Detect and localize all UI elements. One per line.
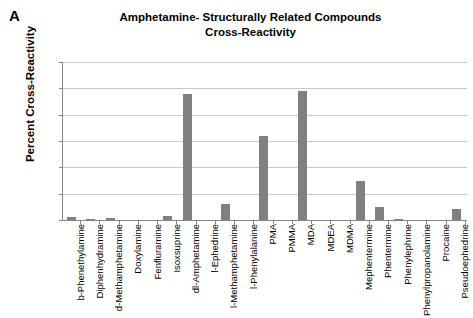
bar-slot: [370, 62, 389, 220]
x-tick-label-cell: b-Phenethylamine: [62, 224, 81, 318]
x-tick-label-cell: Fenfluramine: [139, 224, 158, 318]
bar-slot: [427, 62, 446, 220]
chart-title-line-2: Cross-Reactivity: [48, 25, 453, 40]
bar-slot: [216, 62, 235, 220]
x-tick-label-cell: d-Methamphetamine: [100, 224, 119, 318]
bar[interactable]: [375, 207, 384, 220]
bar-slot: [100, 62, 119, 220]
x-tick-label-cell: MDEA: [312, 224, 331, 318]
bar-slot: [158, 62, 177, 220]
bar-slot: [120, 62, 139, 220]
x-tick-label-cell: PMMA: [274, 224, 293, 318]
y-axis-title: Percent Cross-Reactivity: [24, 4, 36, 184]
x-tick-label-cell: Phenylephrine: [389, 224, 408, 318]
bar-slot: [447, 62, 466, 220]
bar-slot: [177, 62, 196, 220]
x-tick-label-cell: l-Ephedrine: [197, 224, 216, 318]
bar-slot: [389, 62, 408, 220]
bar-slot: [351, 62, 370, 220]
bar[interactable]: [259, 136, 268, 220]
chart-title: Amphetamine- Structurally Related Compou…: [48, 10, 453, 40]
bar-slot: [139, 62, 158, 220]
bar-slot: [312, 62, 331, 220]
x-tick-label-cell: Pseudoephedrine: [447, 224, 466, 318]
x-tick-label-cell: PMA: [254, 224, 273, 318]
bar[interactable]: [221, 204, 230, 220]
bar-slot: [331, 62, 350, 220]
x-tick-label-cell: MDMA: [331, 224, 350, 318]
x-tick-label: Pseudoephedrine: [460, 224, 470, 298]
x-tick-label-cell: Phenylpropanolamine: [408, 224, 427, 318]
chart-figure: A Amphetamine- Structurally Related Comp…: [0, 0, 473, 318]
bars-container: [62, 62, 466, 220]
bar-slot: [408, 62, 427, 220]
bar[interactable]: [452, 209, 461, 220]
x-tick-label-cell: Diphenhydramine: [81, 224, 100, 318]
bar-slot: [81, 62, 100, 220]
x-tick-label-cell: MDA: [293, 224, 312, 318]
bar-slot: [235, 62, 254, 220]
bar-slot: [254, 62, 273, 220]
panel-letter: A: [9, 8, 20, 23]
bar[interactable]: [356, 181, 365, 221]
x-tick-label-cell: dl-Amphetamine: [177, 224, 196, 318]
x-tick-label-cell: Doxylamine: [120, 224, 139, 318]
bar-slot: [62, 62, 81, 220]
chart-title-line-1: Amphetamine- Structurally Related Compou…: [120, 11, 382, 23]
bar[interactable]: [183, 94, 192, 220]
bar-slot: [293, 62, 312, 220]
x-tick-label-cell: l-Phenylalanine: [235, 224, 254, 318]
x-axis-labels: b-PhenethylamineDiphenhydramined-Methamp…: [62, 224, 466, 318]
bar[interactable]: [298, 91, 307, 220]
x-tick-label-cell: Procaine: [427, 224, 446, 318]
bar-slot: [197, 62, 216, 220]
x-tick-label-cell: Isoxsuprine: [158, 224, 177, 318]
x-tick-label-cell: Phentermine: [370, 224, 389, 318]
bar-slot: [274, 62, 293, 220]
x-tick-label-cell: Mephentermine: [351, 224, 370, 318]
x-tick-label-cell: l-Methamphetamine: [216, 224, 235, 318]
